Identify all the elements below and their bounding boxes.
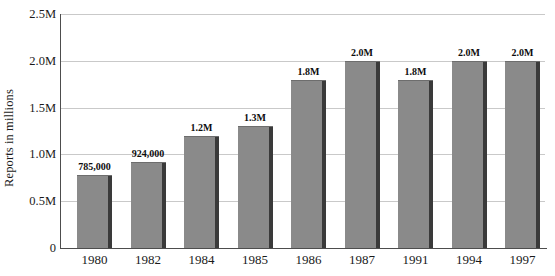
x-tick-label: 1991 <box>385 252 446 267</box>
x-tick-label: 1985 <box>225 252 286 267</box>
x-tick-label: 1980 <box>64 252 125 267</box>
y-axis-tick-labels: 00.5M1.0M1.5M2.0M2.5M <box>18 0 56 276</box>
bar-value-label: 1.3M <box>229 112 282 123</box>
x-tick-label: 1982 <box>118 252 179 267</box>
y-tick-label: 1.0M <box>18 148 56 161</box>
x-tick-label: 1994 <box>439 252 500 267</box>
bar-value-label: 2.0M <box>443 47 496 58</box>
bars: 785,0001980924,00019821.2M19841.3M19851.… <box>60 0 547 276</box>
x-tick-label: 1986 <box>278 252 339 267</box>
bar[interactable] <box>398 80 433 248</box>
bar[interactable] <box>291 80 326 248</box>
bar-group[interactable]: 2.0M <box>505 61 540 248</box>
bar-group[interactable]: 2.0M <box>452 61 487 248</box>
bar-value-label: 1.2M <box>175 122 228 133</box>
bar-group[interactable]: 924,000 <box>131 162 166 248</box>
bar-group[interactable]: 1.8M <box>291 80 326 248</box>
bar-value-label: 2.0M <box>336 47 389 58</box>
bar-group[interactable]: 2.0M <box>345 61 380 248</box>
bar[interactable] <box>184 136 219 248</box>
plot-area: 785,0001980924,00019821.2M19841.3M19851.… <box>60 0 547 276</box>
bar-value-label: 924,000 <box>122 148 175 159</box>
x-tick-label: 1984 <box>171 252 232 267</box>
bar[interactable] <box>505 61 540 248</box>
bar-value-label: 2.0M <box>496 47 549 58</box>
bar-group[interactable]: 1.8M <box>398 80 433 248</box>
bar[interactable] <box>238 126 273 248</box>
y-axis-title: Reports in millions <box>0 0 18 276</box>
y-tick-label: 2.0M <box>18 55 56 68</box>
x-tick-label: 1987 <box>332 252 393 267</box>
bar-group[interactable]: 785,000 <box>77 175 112 248</box>
bar[interactable] <box>345 61 380 248</box>
bar-group[interactable]: 1.3M <box>238 126 273 248</box>
y-tick-label: 0 <box>18 242 56 255</box>
bar[interactable] <box>131 162 166 248</box>
bar-group[interactable]: 1.2M <box>184 136 219 248</box>
bar-value-label: 1.8M <box>389 66 442 77</box>
bar[interactable] <box>452 61 487 248</box>
y-tick-label: 0.5M <box>18 195 56 208</box>
x-tick-label: 1997 <box>492 252 553 267</box>
bar-value-label: 1.8M <box>282 66 335 77</box>
bar-chart: Reports in millions 00.5M1.0M1.5M2.0M2.5… <box>0 0 555 276</box>
bar[interactable] <box>77 175 112 248</box>
y-tick-label: 2.5M <box>18 8 56 21</box>
y-tick-label: 1.5M <box>18 102 56 115</box>
bar-value-label: 785,000 <box>68 161 121 172</box>
